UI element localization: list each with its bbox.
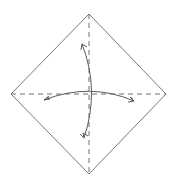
origami-diagram (0, 0, 177, 185)
